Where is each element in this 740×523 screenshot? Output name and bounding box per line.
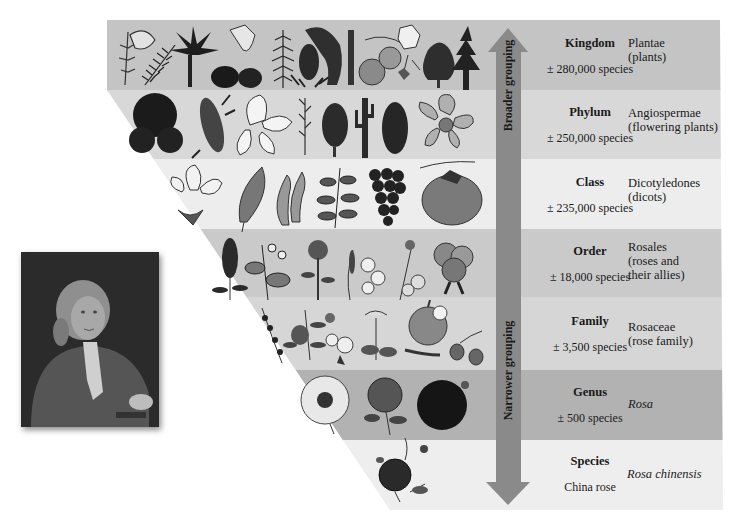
common-name: China rose [531,480,649,495]
taxon-genus: Rosa [628,397,653,411]
taxon-name: Rosaceae [628,320,693,334]
taxon-gloss: (roses and [628,254,685,268]
species-count: ± 500 species [531,411,649,426]
taxon-kingdom: Plantae (plants) [628,36,666,64]
narrower-grouping-label: Narrower grouping [501,317,516,425]
taxon-family: Rosaceae (rose family) [628,320,693,348]
taxon-name: Dicotyledones [628,176,700,190]
species-count: ± 280,000 species [531,62,649,77]
fir-cone-icon [382,102,408,154]
taxon-gloss: their allies) [628,268,685,282]
taxon-gloss: (dicots) [628,190,700,204]
taxon-name: Rosa chinensis [627,467,702,481]
taxon-gloss: (flowering plants) [628,120,718,134]
portrait-image [21,252,159,427]
taxon-order: Rosales (roses and their allies) [628,240,685,282]
taxon-name: Rosales [628,240,685,254]
taxon-species: Rosa chinensis [627,467,702,481]
taxon-gloss: (rose family) [628,334,693,348]
taxon-name: Rosa [628,397,653,411]
taxon-name: Plantae [628,36,666,50]
taxon-gloss: (plants) [628,50,666,64]
taxon-phylum: Angiospermae (flowering plants) [628,106,718,134]
broader-grouping-label: Broader grouping [501,38,516,134]
taxon-class: Dicotyledones (dicots) [628,176,700,204]
taxon-name: Angiospermae [628,106,718,120]
portrait-of-linnaeus [21,252,159,427]
